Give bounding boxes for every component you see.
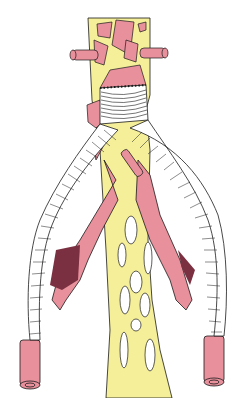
aortobifemoral-bypass-illustration xyxy=(0,0,243,398)
